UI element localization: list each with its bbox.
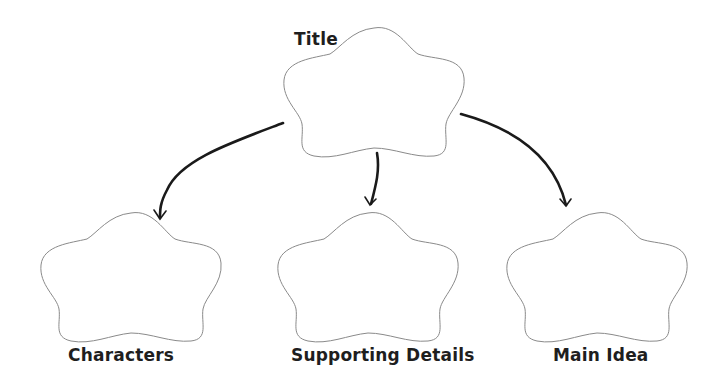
diagram-canvas (0, 0, 722, 386)
characters-blob (41, 213, 221, 342)
arrow-to-main-idea (461, 114, 571, 206)
arrow-to-characters (154, 123, 283, 219)
characters-label: Characters (68, 345, 174, 365)
supporting-details-label: Supporting Details (291, 345, 475, 365)
main-idea-label: Main Idea (553, 345, 649, 365)
main-idea-blob (507, 213, 687, 342)
arrow-to-supporting-details (365, 153, 378, 205)
title-label: Title (294, 29, 338, 49)
supporting-details-blob (278, 213, 458, 342)
